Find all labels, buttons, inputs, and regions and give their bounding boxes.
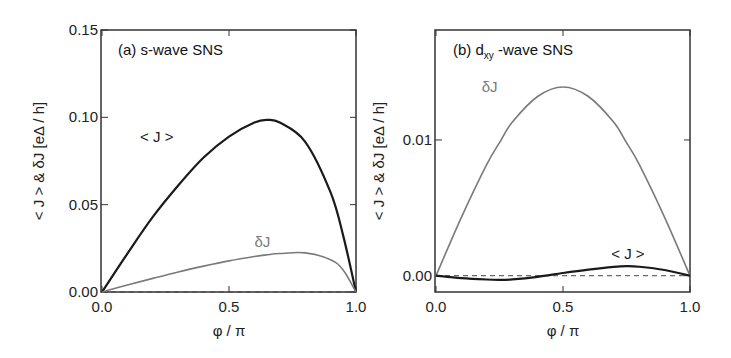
y-tick-label: 0.00 — [403, 267, 432, 284]
curve-label: δJ — [482, 78, 498, 95]
x-tick-label: 1.0 — [680, 298, 701, 315]
panel-a-s-wave: 0.00.51.00.000.050.100.15 < J >δJ (a) s-… — [30, 21, 366, 339]
y-tick-label: 0.10 — [69, 108, 98, 125]
x-axis-label-a: φ / π — [213, 322, 246, 339]
panel-title-b-prefix: (b) d — [453, 41, 484, 58]
x-tick-label: 0.0 — [92, 298, 113, 315]
panel-title-b-suffix: -wave SNS — [494, 41, 573, 58]
y-axis-label-b: < J > & δJ [eΔ / h] — [370, 102, 387, 220]
ticks-b: 0.00.51.00.000.01 — [403, 30, 701, 315]
curve-label: < J > — [140, 128, 174, 145]
y-tick-label: 0.05 — [69, 196, 98, 213]
curves-b — [436, 87, 690, 280]
curve-J-mean — [436, 266, 690, 280]
curve-labels-b: δJ< J > — [482, 78, 645, 262]
x-tick-label: 0.0 — [426, 298, 447, 315]
panel-title-b-subscript: xy — [484, 50, 494, 61]
panel-title-a: (a) s-wave SNS — [118, 41, 223, 58]
curve-J-mean — [102, 120, 356, 292]
curves-a — [102, 120, 356, 292]
curve-deltaJ — [436, 87, 690, 276]
y-tick-label: 0.15 — [69, 21, 98, 38]
x-tick-label: 0.5 — [219, 298, 240, 315]
y-tick-label: 0.00 — [69, 283, 98, 300]
y-tick-label: 0.01 — [403, 131, 432, 148]
panel-title-b: (b) dxy -wave SNS — [453, 41, 573, 61]
ticks-a: 0.00.51.00.000.050.100.15 — [69, 21, 367, 315]
x-tick-label: 1.0 — [346, 298, 367, 315]
y-axis-label-a: < J > & δJ [eΔ / h] — [30, 102, 47, 220]
plot-frame-b — [435, 30, 690, 292]
x-tick-label: 0.5 — [553, 298, 574, 315]
x-axis-label-b: φ / π — [547, 322, 580, 339]
panel-b-dxy-wave: 0.00.51.00.000.01 δJ< J > (b) dxy -wave … — [370, 30, 700, 339]
curve-label: < J > — [611, 245, 645, 262]
curve-label: δJ — [254, 233, 270, 250]
figure: 0.00.51.00.000.050.100.15 < J >δJ (a) s-… — [0, 0, 731, 358]
curve-labels-a: < J >δJ — [140, 128, 270, 250]
